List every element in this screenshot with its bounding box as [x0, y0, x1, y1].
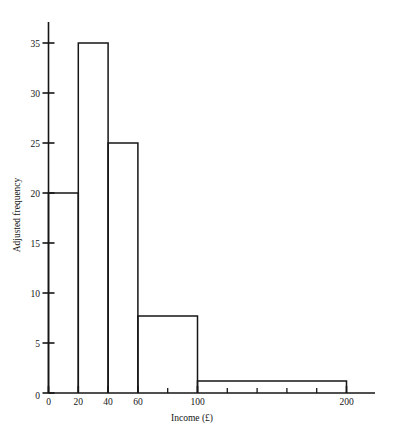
y-tick-label: 0 — [35, 391, 40, 401]
y-tick-label: 15 — [31, 239, 41, 249]
y-tick-label: 10 — [31, 289, 41, 299]
chart-background — [0, 0, 393, 441]
x-tick-label: 200 — [339, 397, 354, 407]
y-tick-label: 25 — [31, 139, 41, 149]
histogram-chart: 0 5 10 15 20 25 30 35 0 — [0, 0, 393, 441]
x-axis-title: Income (£) — [171, 413, 213, 424]
y-axis-title: Adjusted frequency — [12, 177, 22, 252]
chart-svg: 0 5 10 15 20 25 30 35 0 — [0, 0, 393, 441]
x-tick-label: 100 — [190, 397, 205, 407]
y-tick-label: 20 — [31, 189, 41, 199]
x-tick-label: 60 — [133, 397, 143, 407]
x-tick-label: 20 — [74, 397, 84, 407]
x-tick-label: 40 — [103, 397, 113, 407]
y-tick-label: 35 — [31, 39, 41, 49]
y-tick-label: 30 — [31, 89, 41, 99]
x-tick-label: 0 — [46, 397, 51, 407]
y-tick-label: 5 — [35, 339, 40, 349]
